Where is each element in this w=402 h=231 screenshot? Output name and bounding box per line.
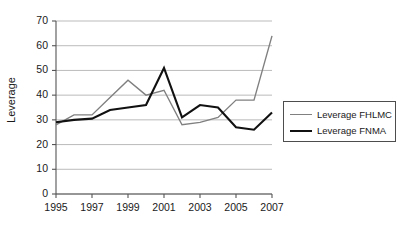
y-tick-label: 30 [22, 113, 48, 125]
legend-line-icon-fnma [290, 130, 312, 132]
x-tick-label: 1995 [39, 201, 73, 213]
x-tick-label: 2007 [255, 201, 289, 213]
y-tick-label: 20 [22, 138, 48, 150]
y-tick-label: 70 [22, 14, 48, 26]
legend-item-fnma: Leverage FNMA [290, 123, 395, 138]
legend-line-icon-fhlmc [290, 114, 312, 115]
y-tick-label: 10 [22, 162, 48, 174]
x-tick-label: 1999 [111, 201, 145, 213]
x-tick-label: 2005 [219, 201, 253, 213]
axis-lines [56, 21, 272, 194]
legend-item-fhlmc: Leverage FHLMC [290, 107, 395, 122]
data-series [56, 36, 272, 130]
x-tick-marks [56, 194, 272, 198]
x-tick-label: 1997 [75, 201, 109, 213]
x-tick-label: 2001 [147, 201, 181, 213]
y-tick-marks [52, 21, 56, 194]
y-tick-label: 60 [22, 39, 48, 51]
legend: Leverage FHLMC Leverage FNMA [283, 101, 396, 142]
y-tick-label: 50 [22, 63, 48, 75]
gridlines [56, 21, 272, 194]
leverage-line-chart: Leverage 706050403020100 199519971999200… [0, 0, 402, 231]
legend-label-fnma: Leverage FNMA [317, 125, 386, 136]
legend-label-fhlmc: Leverage FHLMC [317, 109, 392, 120]
x-tick-label: 2003 [183, 201, 217, 213]
y-tick-label: 0 [22, 187, 48, 199]
y-tick-label: 40 [22, 88, 48, 100]
